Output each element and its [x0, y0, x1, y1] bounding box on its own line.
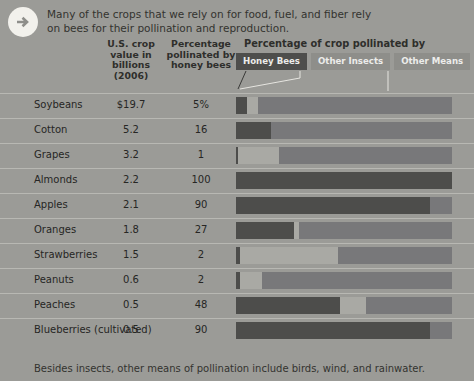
arrow-right-circle-icon	[8, 7, 38, 37]
table-row[interactable]: Strawberries 1.5 2	[0, 243, 474, 268]
cell-crop-value: $19.7	[100, 99, 162, 110]
table-row[interactable]: Cotton 5.2 16	[0, 118, 474, 143]
bar-segment-other-means	[279, 147, 452, 164]
header-percentage-pollinated: Percentage pollinated by honey bees	[166, 39, 236, 71]
bar-segment-honey-bees	[236, 222, 294, 239]
cell-crop-value: 2.1	[100, 199, 162, 210]
chart-legend: Honey Bees Other Insects Other Means	[236, 53, 470, 70]
bar-segment-other-means	[271, 122, 452, 139]
cell-crop-name: Almonds	[34, 174, 77, 186]
cell-percentage: 5%	[166, 99, 236, 110]
cell-crop-value: 1.8	[100, 224, 162, 235]
stacked-bar	[236, 247, 452, 264]
bar-segment-other-insects	[238, 147, 279, 164]
bar-segment-honey-bees	[236, 322, 430, 339]
cell-crop-name: Soybeans	[34, 99, 83, 111]
bar-segment-honey-bees	[236, 172, 452, 189]
cell-crop-name: Strawberries	[34, 249, 97, 261]
table-row[interactable]: Peanuts 0.6 2	[0, 268, 474, 293]
bar-segment-other-means	[430, 322, 452, 339]
cell-percentage: 2	[166, 274, 236, 285]
cell-crop-name: Peaches	[34, 299, 75, 311]
column-headers: U.S. crop value in billions (2006) Perce…	[0, 37, 474, 93]
stacked-bar	[236, 97, 452, 114]
table-row[interactable]: Almonds 2.2 100	[0, 168, 474, 193]
legend-item-other-insects[interactable]: Other Insects	[311, 53, 390, 70]
bar-segment-honey-bees	[236, 97, 247, 114]
table-row[interactable]: Blueberries (cultivated) 0.5 90	[0, 318, 474, 353]
crop-table: Soybeans $19.7 5% Cotton 5.2 16 Grapes 3…	[0, 93, 474, 353]
cell-crop-name: Cotton	[34, 124, 67, 136]
cell-percentage: 48	[166, 299, 236, 310]
table-row[interactable]: Oranges 1.8 27	[0, 218, 474, 243]
cell-crop-value: 3.2	[100, 149, 162, 160]
bar-segment-other-means	[258, 97, 452, 114]
bar-segment-other-means	[338, 247, 452, 264]
cell-crop-value: 0.6	[100, 274, 162, 285]
stacked-bar	[236, 172, 452, 189]
cell-crop-value: 2.2	[100, 174, 162, 185]
cell-percentage: 100	[166, 174, 236, 185]
stacked-bar	[236, 222, 452, 239]
bar-segment-honey-bees	[236, 197, 430, 214]
footnote: Besides insects, other means of pollinat…	[34, 363, 425, 374]
bar-segment-other-insects	[247, 97, 258, 114]
stacked-bar	[236, 322, 452, 339]
cell-crop-value: 1.5	[100, 249, 162, 260]
bar-segment-other-insects	[240, 272, 262, 289]
table-row[interactable]: Apples 2.1 90	[0, 193, 474, 218]
cell-percentage: 2	[166, 249, 236, 260]
cell-percentage: 90	[166, 199, 236, 210]
bar-segment-honey-bees	[236, 122, 271, 139]
stacked-bar	[236, 197, 452, 214]
cell-crop-name: Grapes	[34, 149, 70, 161]
legend-item-honey-bees[interactable]: Honey Bees	[236, 53, 307, 70]
legend-item-other-means[interactable]: Other Means	[394, 53, 470, 70]
table-row[interactable]: Grapes 3.2 1	[0, 143, 474, 168]
cell-crop-name: Oranges	[34, 224, 76, 236]
cell-crop-name: Apples	[34, 199, 68, 211]
cell-crop-value: 0.5	[100, 299, 162, 310]
stacked-bar	[236, 147, 452, 164]
bar-segment-other-means	[299, 222, 452, 239]
bar-segment-other-means	[262, 272, 452, 289]
cell-crop-name: Peanuts	[34, 274, 74, 286]
bar-segment-other-means	[430, 197, 452, 214]
bar-segment-honey-bees	[236, 297, 340, 314]
cell-crop-value: 0.5	[100, 324, 162, 335]
intro-banner: Many of the crops that we rely on for fo…	[0, 0, 474, 37]
table-row[interactable]: Peaches 0.5 48	[0, 293, 474, 318]
stacked-bar	[236, 297, 452, 314]
bar-segment-other-means	[366, 297, 452, 314]
cell-percentage: 1	[166, 149, 236, 160]
table-row[interactable]: Soybeans $19.7 5%	[0, 93, 474, 118]
stacked-bar	[236, 122, 452, 139]
intro-text: Many of the crops that we rely on for fo…	[47, 6, 377, 35]
bar-segment-other-insects	[340, 297, 366, 314]
cell-percentage: 27	[166, 224, 236, 235]
header-chart-title: Percentage of crop pollinated by	[244, 39, 425, 50]
header-crop-value: U.S. crop value in billions (2006)	[100, 39, 162, 81]
cell-percentage: 90	[166, 324, 236, 335]
stacked-bar	[236, 272, 452, 289]
cell-percentage: 16	[166, 124, 236, 135]
cell-crop-value: 5.2	[100, 124, 162, 135]
bar-segment-other-insects	[240, 247, 337, 264]
